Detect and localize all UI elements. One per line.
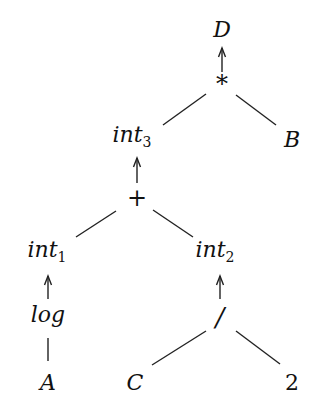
node-D: D <box>212 17 231 42</box>
node-plus: + <box>127 184 147 212</box>
node-A: A <box>38 370 56 395</box>
node-int2-label: int <box>196 237 226 262</box>
edge-int1-to-plus <box>76 211 116 237</box>
node-int3-subscript: 3 <box>143 134 152 150</box>
node-divide: / <box>213 302 227 332</box>
node-B: B <box>283 127 300 152</box>
edge-B-to-mul <box>236 95 276 125</box>
node-int3: int3 <box>113 122 152 150</box>
node-int3-label: int <box>113 122 143 147</box>
edge-two-to-div <box>236 331 280 364</box>
node-int1: int1 <box>28 237 67 265</box>
expression-tree-diagram: D * int3 B + int1 int2 log / A C 2 <box>0 0 322 420</box>
node-log: log <box>31 302 65 327</box>
node-int1-label: int <box>28 237 58 262</box>
edge-int3-to-mul <box>163 94 206 125</box>
node-int1-subscript: 1 <box>58 249 67 265</box>
node-2: 2 <box>285 370 299 395</box>
node-C: C <box>127 370 144 395</box>
edge-int2-to-plus <box>153 210 193 237</box>
node-int2-subscript: 2 <box>226 249 235 265</box>
node-multiply: * <box>216 70 228 98</box>
edge-C-to-div <box>152 331 206 365</box>
node-int2: int2 <box>196 237 235 265</box>
